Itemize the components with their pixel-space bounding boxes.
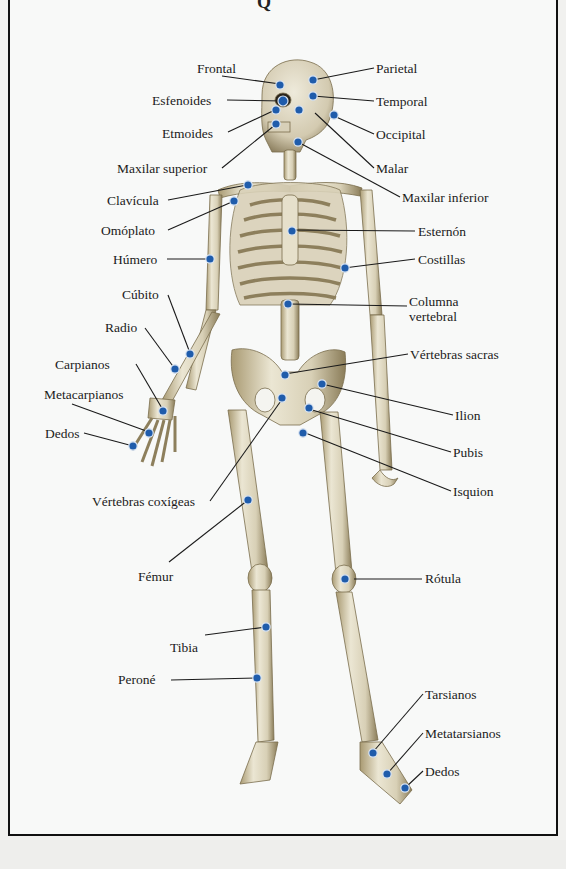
label-omoplato: Omóplato [101,223,155,238]
label-maxilar-inferior: Maxilar inferior [402,190,489,205]
label-tarsianos: Tarsianos [425,687,477,702]
label-costillas: Costillas [418,252,465,267]
label-ilion: Ilion [455,408,481,423]
label-rotula: Rótula [425,571,461,586]
label-temporal: Temporal [376,94,428,109]
label-maxilar-superior: Maxilar superior [117,161,207,176]
label-clavicula: Clavícula [107,193,159,208]
label-humero: Húmero [113,252,157,267]
label-malar: Malar [376,161,408,176]
label-isquion: Isquion [453,484,494,499]
label-esfenoides: Esfenoides [152,93,211,108]
label-columna-vertebral: Columna vertebral [409,294,489,324]
label-occipital: Occipital [376,127,425,142]
label-femur: Fémur [138,569,173,584]
label-vertebras-sacras: Vértebras sacras [410,347,499,362]
label-carpianos: Carpianos [55,357,110,372]
label-frontal: Frontal [197,61,236,76]
label-metatarsianos: Metatarsianos [425,726,501,741]
label-tibia: Tibia [170,640,198,655]
label-vertebras-coxigeas: Vértebras coxígeas [92,494,195,509]
label-dedos-mano: Dedos [45,426,80,441]
label-parietal: Parietal [376,61,417,76]
label-cubito: Cúbito [122,287,159,302]
label-perone: Peroné [118,672,156,687]
label-dedos-pie: Dedos [425,764,460,779]
label-pubis: Pubis [453,445,483,460]
label-etmoides: Etmoides [162,126,213,141]
label-esternon: Esternón [418,224,466,239]
label-radio: Radio [105,320,137,335]
label-metacarpianos: Metacarpianos [44,387,123,402]
